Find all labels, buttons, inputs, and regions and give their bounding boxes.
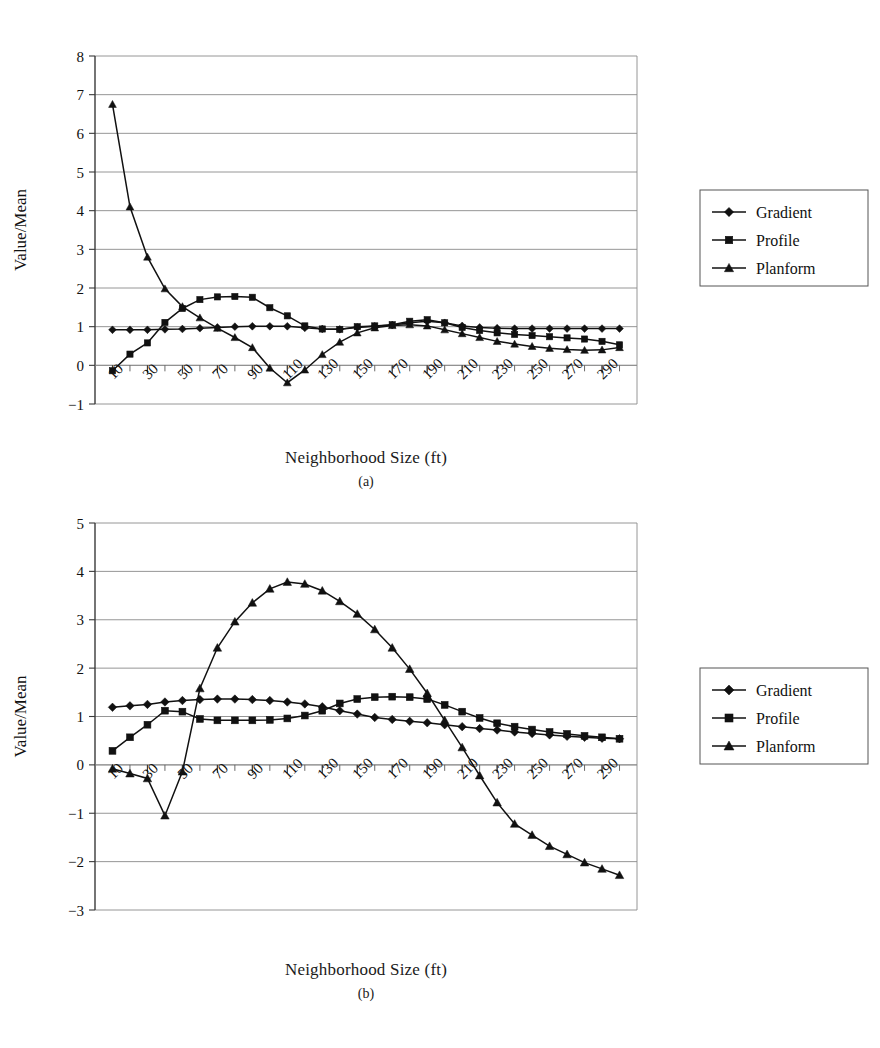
data-point-diamond bbox=[178, 696, 187, 705]
x-tick-label: 290 bbox=[594, 755, 621, 782]
data-point-triangle bbox=[231, 334, 239, 341]
series-line bbox=[112, 104, 619, 382]
data-point-triangle bbox=[580, 858, 589, 866]
data-point-diamond bbox=[405, 717, 414, 726]
data-point-square bbox=[599, 338, 605, 344]
data-point-square bbox=[546, 729, 553, 736]
data-point-triangle bbox=[283, 578, 292, 586]
x-tick-label: 70 bbox=[209, 760, 231, 782]
data-point-square bbox=[214, 717, 221, 724]
data-point-square bbox=[512, 331, 518, 337]
data-point-diamond bbox=[108, 703, 117, 712]
legend-label: Gradient bbox=[756, 204, 813, 221]
x-tick-label: 290 bbox=[594, 355, 621, 382]
x-tick-label: 50 bbox=[174, 361, 196, 383]
panel-caption-a: (a) bbox=[95, 474, 637, 490]
x-tick-label: 230 bbox=[489, 355, 516, 382]
data-point-square bbox=[476, 715, 483, 722]
y-tick-label: 5 bbox=[77, 516, 85, 532]
chart-legend: GradientProfilePlanform bbox=[700, 668, 868, 764]
x-tick-label: 190 bbox=[419, 755, 446, 782]
data-point-diamond bbox=[563, 325, 571, 333]
data-point-diamond bbox=[353, 710, 362, 719]
data-point-square bbox=[249, 717, 256, 724]
x-tick-label: 150 bbox=[349, 355, 376, 382]
data-point-triangle bbox=[336, 597, 345, 605]
data-point-square bbox=[529, 726, 536, 733]
data-point-square bbox=[337, 326, 343, 332]
data-point-diamond bbox=[301, 700, 310, 709]
x-tick-label: 130 bbox=[314, 755, 341, 782]
data-point-diamond bbox=[283, 698, 292, 707]
data-point-diamond bbox=[231, 695, 240, 704]
x-tick-label: 250 bbox=[524, 755, 551, 782]
data-point-square bbox=[371, 694, 378, 701]
data-point-triangle bbox=[196, 314, 204, 321]
y-tick-label: 2 bbox=[77, 281, 85, 297]
data-point-triangle bbox=[161, 811, 170, 819]
data-point-triangle bbox=[353, 610, 362, 618]
data-point-square bbox=[564, 335, 570, 341]
legend-marker-square bbox=[725, 714, 733, 722]
data-point-triangle bbox=[336, 338, 344, 345]
data-point-triangle bbox=[440, 716, 449, 724]
legend-marker-square bbox=[725, 236, 732, 243]
y-tick-label: 2 bbox=[77, 661, 85, 677]
x-tick-label: 170 bbox=[384, 355, 411, 382]
data-point-square bbox=[581, 336, 587, 342]
y-tick-label: 1 bbox=[77, 709, 85, 725]
data-point-diamond bbox=[213, 695, 222, 704]
data-point-diamond bbox=[546, 325, 554, 333]
data-point-triangle bbox=[458, 743, 467, 751]
data-point-square bbox=[109, 747, 116, 754]
y-tick-label: 1 bbox=[77, 319, 85, 335]
data-point-diamond bbox=[581, 325, 589, 333]
legend-label: Profile bbox=[756, 710, 800, 727]
data-point-square bbox=[319, 326, 325, 332]
x-tick-label: 210 bbox=[454, 355, 481, 382]
data-point-square bbox=[109, 368, 115, 374]
data-point-square bbox=[336, 700, 343, 707]
data-point-square bbox=[284, 715, 291, 722]
data-point-square bbox=[511, 723, 518, 730]
x-tick-label: 90 bbox=[244, 361, 266, 383]
data-point-square bbox=[301, 712, 308, 719]
y-tick-label: 4 bbox=[77, 564, 85, 580]
y-tick-label: 5 bbox=[77, 165, 85, 181]
legend-label: Planform bbox=[756, 260, 816, 277]
data-point-square bbox=[581, 732, 588, 739]
series-planform bbox=[109, 100, 624, 385]
data-point-square bbox=[266, 716, 273, 723]
data-point-square bbox=[389, 693, 396, 700]
data-point-diamond bbox=[283, 322, 291, 330]
y-tick-label: −1 bbox=[68, 806, 84, 822]
data-point-triangle bbox=[248, 344, 256, 351]
data-point-square bbox=[197, 297, 203, 303]
data-point-square bbox=[162, 707, 169, 714]
data-point-diamond bbox=[616, 325, 624, 333]
series-group bbox=[109, 100, 624, 385]
data-point-triangle bbox=[126, 203, 134, 210]
data-point-diamond bbox=[161, 698, 170, 707]
chart-legend: GradientProfilePlanform bbox=[700, 190, 868, 286]
legend-label: Profile bbox=[756, 232, 800, 249]
data-point-diamond bbox=[126, 702, 135, 711]
data-point-square bbox=[144, 721, 151, 728]
y-axis-title: Value/Mean bbox=[11, 675, 30, 758]
chart-a-footer: Neighborhood Size (ft) (a) bbox=[95, 448, 637, 490]
data-point-triangle bbox=[563, 850, 572, 858]
y-tick-label: −3 bbox=[68, 903, 84, 919]
data-point-triangle bbox=[144, 253, 152, 260]
y-axis-title: Value/Mean bbox=[11, 188, 30, 271]
data-point-square bbox=[459, 708, 466, 715]
series-gradient bbox=[108, 695, 624, 743]
data-point-diamond bbox=[598, 325, 606, 333]
x-tick-label: 110 bbox=[279, 755, 306, 782]
data-point-diamond bbox=[458, 722, 467, 731]
x-axis-title-a: Neighborhood Size (ft) bbox=[95, 448, 637, 468]
data-point-square bbox=[231, 717, 238, 724]
data-point-diamond bbox=[143, 700, 152, 709]
data-point-square bbox=[494, 720, 501, 727]
data-point-square bbox=[232, 293, 238, 299]
chart-b-plot: −3−2−10123451030507090110130150170190210… bbox=[0, 490, 880, 960]
